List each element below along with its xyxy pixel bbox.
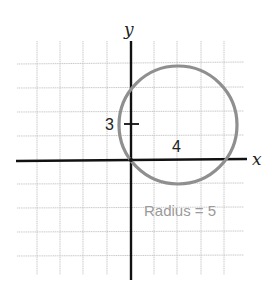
x-axis-label: x [252,149,262,169]
center-x-label: 4 [172,138,181,155]
origin-point [129,158,133,162]
y-tick-label: 3 [105,116,114,133]
radius-label: Radius = 5 [144,202,216,219]
y-axis-label: y [123,19,134,39]
circle [119,66,237,184]
coordinate-plane-diagram: y x 3 4 Radius = 5 [0,0,278,292]
